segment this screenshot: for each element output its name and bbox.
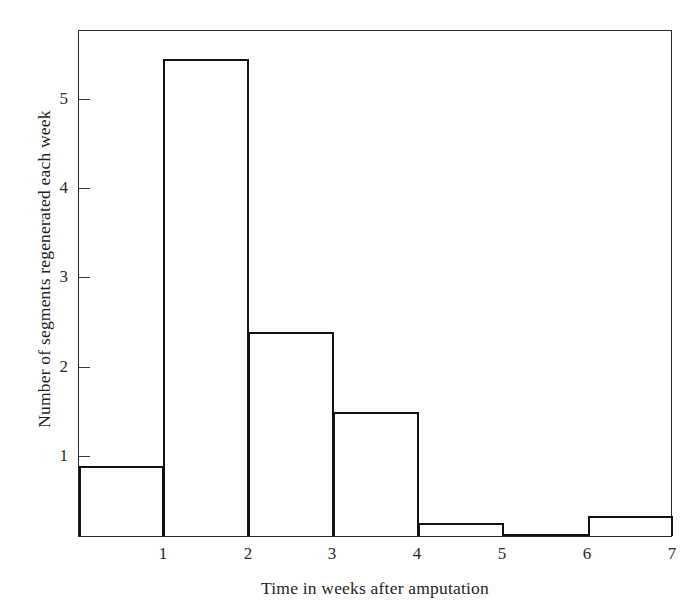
bar-week-0-1: [79, 466, 164, 536]
bar-week-3-4: [333, 412, 419, 536]
histogram-figure: Number of segments regenerated each week…: [0, 0, 696, 613]
x-tick-label-5: 5: [489, 545, 515, 562]
x-tick-label-4: 4: [404, 545, 430, 562]
y-tick-2: [79, 367, 90, 368]
y-tick-label-4: 4: [44, 179, 68, 196]
bar-week-2-3: [248, 332, 334, 536]
x-tick-5: [503, 523, 504, 536]
y-tick-5: [79, 99, 90, 100]
y-tick-1: [79, 456, 90, 457]
bar-week-4-5: [418, 523, 504, 536]
x-tick-label-1: 1: [150, 545, 176, 562]
plot-area: [78, 30, 672, 537]
bar-week-1-2: [163, 59, 249, 536]
x-tick-label-2: 2: [235, 545, 261, 562]
x-tick-label-3: 3: [319, 545, 345, 562]
x-axis-title: Time in weeks after amputation: [78, 578, 672, 599]
y-tick-3: [79, 277, 90, 278]
y-tick-label-1: 1: [44, 447, 68, 464]
x-tick-6: [588, 523, 589, 536]
x-tick-4: [418, 523, 419, 536]
x-tick-1: [164, 523, 165, 536]
y-tick-label-3: 3: [44, 268, 68, 285]
y-tick-label-2: 2: [44, 358, 68, 375]
bar-week-6-7: [588, 516, 673, 536]
y-tick-4: [79, 188, 90, 189]
bar-week-5-6: [503, 534, 589, 536]
x-tick-3: [333, 523, 334, 536]
y-tick-label-5: 5: [44, 90, 68, 107]
x-tick-label-7: 7: [659, 545, 685, 562]
x-tick-2: [249, 523, 250, 536]
x-tick-label-6: 6: [574, 545, 600, 562]
bars-layer: [79, 31, 671, 536]
